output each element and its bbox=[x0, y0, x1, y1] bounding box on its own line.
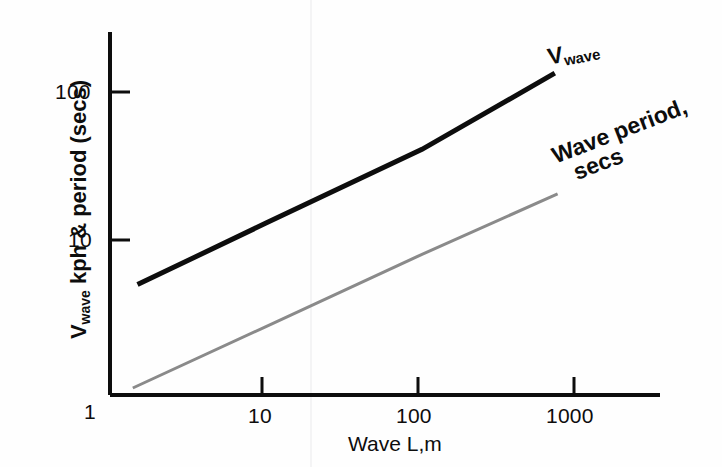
x-axis-ticks bbox=[262, 377, 574, 395]
y-tick-label-10: 10 bbox=[68, 228, 92, 252]
x-axis-title: Wave L,m bbox=[348, 432, 442, 456]
chart-plot bbox=[0, 0, 722, 467]
y-axis-title-main: V bbox=[66, 324, 91, 339]
y-tick-label-100: 100 bbox=[55, 80, 91, 104]
figure-canvas: Vwave kph & period (secs) 100 10 1 10 10… bbox=[0, 0, 722, 467]
series-line-vwave bbox=[138, 73, 555, 284]
series-line-wave-period bbox=[133, 194, 558, 388]
x-tick-label-10: 10 bbox=[248, 404, 272, 428]
y-axis-title-sub: wave bbox=[77, 290, 93, 324]
y-axis-title-rest: kph & period (secs) bbox=[66, 80, 91, 290]
x-tick-label-1000: 1000 bbox=[546, 404, 594, 428]
y-tick-label-1: 1 bbox=[84, 400, 96, 424]
y-axis-ticks bbox=[110, 92, 130, 240]
x-tick-label-100: 100 bbox=[396, 404, 432, 428]
